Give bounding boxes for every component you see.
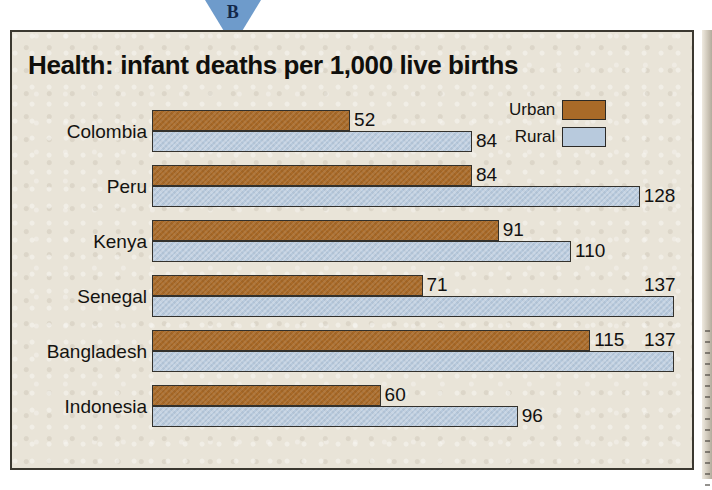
bar-rural-indonesia <box>152 406 518 427</box>
value-label-rural-bangladesh: 137 <box>644 329 676 351</box>
chart-row: Bangladesh115137 <box>12 330 692 376</box>
value-label-rural-peru: 128 <box>644 185 676 207</box>
category-label-kenya: Kenya <box>0 231 147 253</box>
value-label-urban-peru: 84 <box>476 164 497 186</box>
chart-row: Senegal71137 <box>12 275 692 321</box>
page-edge-artifact <box>702 30 712 479</box>
value-label-rural-colombia: 84 <box>476 130 497 152</box>
value-label-urban-senegal: 71 <box>427 274 448 296</box>
bar-rural-kenya <box>152 241 571 262</box>
chart-row: Peru84128 <box>12 165 692 211</box>
bar-rural-bangladesh <box>152 351 674 372</box>
category-label-colombia: Colombia <box>0 121 147 143</box>
chart-row: Colombia5284 <box>12 110 692 156</box>
bar-rural-colombia <box>152 131 472 152</box>
value-label-urban-kenya: 91 <box>503 219 524 241</box>
chart-row: Indonesia6096 <box>12 385 692 431</box>
bar-urban-bangladesh <box>152 330 590 351</box>
bar-urban-peru <box>152 165 472 186</box>
value-label-rural-kenya: 110 <box>575 240 605 262</box>
value-label-rural-indonesia: 96 <box>522 405 543 427</box>
chart-row: Kenya91110 <box>12 220 692 266</box>
category-label-peru: Peru <box>0 176 147 198</box>
value-label-urban-bangladesh: 115 <box>594 329 624 351</box>
bar-rural-senegal <box>152 296 674 317</box>
bar-urban-colombia <box>152 110 350 131</box>
bar-urban-indonesia <box>152 385 381 406</box>
value-label-urban-indonesia: 60 <box>385 384 406 406</box>
category-label-bangladesh: Bangladesh <box>0 341 147 363</box>
plot-area: Colombia5284Peru84128Kenya91110Senegal71… <box>12 32 692 468</box>
bar-rural-peru <box>152 186 640 207</box>
category-label-indonesia: Indonesia <box>0 396 147 418</box>
bar-urban-kenya <box>152 220 499 241</box>
chart-panel: Health: infant deaths per 1,000 live bir… <box>10 30 694 470</box>
bar-urban-senegal <box>152 275 423 296</box>
value-label-rural-senegal: 137 <box>644 274 676 296</box>
section-marker-letter: B <box>205 2 261 23</box>
page-edge-ticks <box>705 330 710 490</box>
value-label-urban-colombia: 52 <box>354 109 375 131</box>
category-label-senegal: Senegal <box>0 286 147 308</box>
